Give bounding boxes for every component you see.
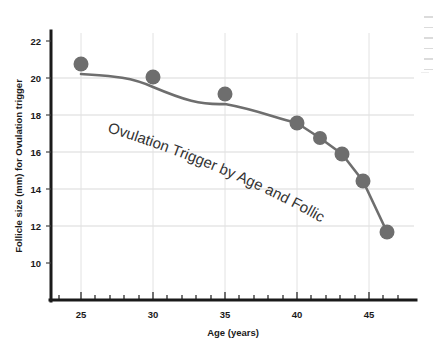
xtick-label-35: 35 <box>220 309 231 320</box>
data-point-25[interactable] <box>74 57 89 72</box>
horizontal-gridlines <box>51 78 414 226</box>
data-point-41-5[interactable] <box>313 131 327 145</box>
xtick-label-45: 45 <box>364 309 375 320</box>
data-point-44-3[interactable] <box>356 174 371 189</box>
chart-title-text: Ovulation Trigger by Age and Follicle Si… <box>0 0 328 225</box>
ytick-label-12: 12 <box>30 221 41 232</box>
xtick-label-25: 25 <box>76 309 87 320</box>
x-axis-ticks <box>59 292 398 299</box>
ytick-label-18: 18 <box>30 110 41 121</box>
chart-container: 22 20 18 16 14 12 10 25 30 35 40 45 Age … <box>0 0 435 351</box>
x-axis-title: Age (years) <box>207 327 259 338</box>
xtick-label-40: 40 <box>292 309 303 320</box>
data-point-35[interactable] <box>218 87 233 102</box>
x-axis-tick-labels: 25 30 35 40 45 <box>76 309 375 320</box>
series-markers <box>74 57 395 240</box>
xtick-label-30: 30 <box>148 309 159 320</box>
ytick-label-20: 20 <box>30 73 41 84</box>
data-point-45-8[interactable] <box>380 225 395 240</box>
data-point-43[interactable] <box>335 147 350 162</box>
ytick-label-14: 14 <box>30 184 41 195</box>
data-point-30[interactable] <box>146 70 161 85</box>
chart-title: Ovulation Trigger by Age and Follicle Si… <box>0 0 328 225</box>
ytick-label-22: 22 <box>30 36 41 47</box>
ytick-label-16: 16 <box>30 147 41 158</box>
ytick-label-10: 10 <box>30 258 41 269</box>
y-axis-title: Follicle size (mm) for Ovulation trigger <box>13 79 24 253</box>
line-chart: 22 20 18 16 14 12 10 25 30 35 40 45 Age … <box>0 0 435 351</box>
y-axis-tick-labels: 22 20 18 16 14 12 10 <box>30 36 41 269</box>
data-point-40[interactable] <box>290 116 305 131</box>
